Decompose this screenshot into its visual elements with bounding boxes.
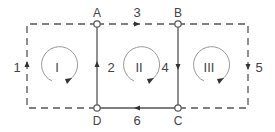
loop-III-label: III bbox=[204, 60, 215, 75]
branch-4-arrow-down-icon bbox=[176, 64, 181, 70]
loop-II-label: II bbox=[135, 60, 142, 75]
branch-5-arrow-down-icon bbox=[246, 64, 251, 70]
node-D-label: D bbox=[93, 114, 102, 128]
branch-3-arrow-right-icon bbox=[134, 22, 140, 27]
loop-I-arrow-icon bbox=[65, 78, 72, 84]
loop-I-label: I bbox=[55, 60, 59, 75]
node-B bbox=[175, 21, 181, 27]
node-A bbox=[94, 21, 100, 27]
loop-II-arrow-icon bbox=[147, 78, 154, 84]
node-D bbox=[94, 105, 100, 111]
branch-3-label: 3 bbox=[133, 5, 140, 20]
loop-III-arrow-icon bbox=[217, 78, 224, 84]
branch-6-label: 6 bbox=[133, 113, 140, 128]
branch-2-label: 2 bbox=[107, 60, 114, 75]
branch-1-wire bbox=[27, 24, 97, 108]
node-C-label: C bbox=[174, 114, 183, 128]
branch-2-arrow-up-icon bbox=[95, 61, 100, 67]
loop-I-arc-icon bbox=[42, 47, 78, 81]
node-B-label: B bbox=[174, 6, 182, 20]
branch-5-label: 5 bbox=[255, 60, 262, 75]
node-A-label: A bbox=[93, 6, 101, 20]
branch-1-arrow-up-icon bbox=[25, 61, 30, 67]
branch-4-label: 4 bbox=[161, 60, 168, 75]
circuit-diagram: A B C D 1 2 3 4 5 6 I II III bbox=[0, 0, 275, 132]
node-C bbox=[175, 105, 181, 111]
branch-6-arrow-left-icon bbox=[134, 106, 140, 111]
branch-1-label: 1 bbox=[13, 60, 20, 75]
